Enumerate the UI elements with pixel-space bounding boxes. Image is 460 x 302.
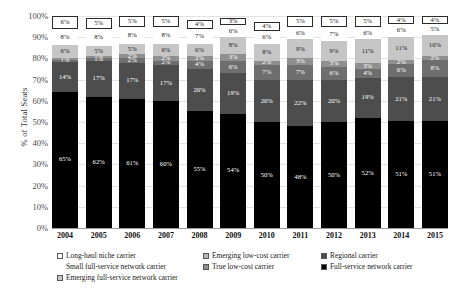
bar-segment[interactable]: 19%: [355, 78, 381, 118]
legend-item[interactable]: Emerging full-service network carrier: [57, 272, 203, 283]
bar-segment[interactable]: 54%: [220, 114, 246, 228]
bar-segment[interactable]: 5%: [86, 18, 112, 29]
bar-segment[interactable]: 62%: [86, 97, 112, 228]
bar-segment[interactable]: 5%: [119, 44, 145, 55]
bar-segment[interactable]: 5%: [119, 16, 145, 27]
x-tick-label: 2006: [119, 231, 145, 240]
legend-swatch-icon: [321, 253, 327, 259]
bar-segment[interactable]: 52%: [355, 118, 381, 228]
bar-segment[interactable]: 9%: [287, 39, 313, 58]
bar-segment[interactable]: 7%: [187, 29, 213, 44]
bar-segment[interactable]: 5%: [86, 46, 112, 57]
bar-segment[interactable]: 5%: [355, 16, 381, 27]
bar-segment[interactable]: 21%: [388, 77, 414, 121]
bar-column[interactable]: 4%6%11%2%6%21%51%: [388, 16, 414, 228]
bar-segment[interactable]: 4%: [254, 22, 280, 30]
bar-segment[interactable]: 19%: [220, 73, 246, 113]
bar-segment[interactable]: 17%: [153, 65, 179, 101]
bar-segment[interactable]: 21%: [422, 77, 448, 121]
bar-segment[interactable]: 55%: [187, 111, 213, 228]
bar-segment[interactable]: 5%: [321, 16, 347, 27]
legend-label: True low-cost carrier: [212, 263, 274, 270]
bar-segment[interactable]: 6%: [355, 27, 381, 40]
bar-segment[interactable]: 4%: [187, 61, 213, 69]
bar-column[interactable]: 4%7%6%2%4%20%55%: [187, 16, 213, 228]
bar-segment[interactable]: 6%: [220, 61, 246, 74]
bar-segment[interactable]: 6%: [220, 25, 246, 38]
bar-column[interactable]: 3%6%8%3%6%19%54%: [220, 16, 246, 228]
bar-segment[interactable]: 6%: [254, 31, 280, 44]
bar-segment[interactable]: 5%: [287, 16, 313, 27]
bar-column[interactable]: 6%8%6%1%1%14%65%: [52, 16, 78, 228]
bar-segment[interactable]: 17%: [119, 63, 145, 99]
bar-segment[interactable]: 4%: [422, 16, 448, 24]
bar-segment[interactable]: 5%: [153, 16, 179, 27]
bar-segment[interactable]: 4%: [355, 69, 381, 77]
bar-segment[interactable]: 6%: [52, 45, 78, 58]
legend-label: Full-service network carrier: [330, 263, 413, 270]
bar-segment[interactable]: 6%: [187, 44, 213, 57]
y-tick-label: 20%: [32, 181, 48, 191]
bar-segment[interactable]: 50%: [254, 122, 280, 228]
bar-segment[interactable]: 48%: [287, 126, 313, 228]
bar-segment[interactable]: 10%: [422, 35, 448, 56]
bar-segment[interactable]: 65%: [52, 92, 78, 228]
bar-segment[interactable]: 7%: [254, 65, 280, 80]
legend-item[interactable]: Regional carrier: [321, 250, 421, 261]
bar-segment[interactable]: 8%: [119, 27, 145, 44]
legend-item[interactable]: Full-service network carrier: [321, 261, 421, 272]
legend-item[interactable]: Small full-service network carrier: [57, 261, 203, 272]
bar-segment[interactable]: 7%: [321, 27, 347, 42]
bar-segment[interactable]: 22%: [287, 80, 313, 127]
legend-swatch-icon: [321, 264, 327, 270]
legend-label: Emerging low-cost carrier: [212, 252, 289, 259]
bar-segment[interactable]: 17%: [86, 61, 112, 97]
x-tick-label: 2011: [287, 231, 313, 240]
bar-segment[interactable]: 9%: [321, 41, 347, 60]
bar-column[interactable]: 5%8%5%1%1%17%62%: [86, 16, 112, 228]
bar-segment[interactable]: 6%: [287, 27, 313, 40]
legend-item[interactable]: True low-cost carrier: [203, 261, 321, 272]
bar-column[interactable]: 5%7%9%3%6%20%50%: [321, 16, 347, 228]
bar-segment[interactable]: 11%: [388, 37, 414, 60]
bar-segment[interactable]: 50%: [321, 122, 347, 228]
bar-segment[interactable]: 8%: [254, 44, 280, 61]
bar-segment[interactable]: 7%: [287, 65, 313, 80]
bar-segment[interactable]: 8%: [52, 29, 78, 46]
bar-column[interactable]: 5%8%5%2%2%17%61%: [119, 16, 145, 228]
legend-item[interactable]: Emerging low-cost carrier: [203, 250, 321, 261]
bar-segment[interactable]: 60%: [153, 101, 179, 228]
y-tick-label: 80%: [32, 53, 48, 63]
legend-swatch-icon: [57, 253, 63, 259]
bar-column[interactable]: 5%6%9%3%7%22%48%: [287, 16, 313, 228]
bar-segment[interactable]: 20%: [321, 80, 347, 122]
bar-segment[interactable]: 20%: [254, 80, 280, 122]
bar-segment[interactable]: 11%: [355, 39, 381, 62]
y-tick-label: 60%: [32, 96, 48, 106]
y-tick-label: 30%: [32, 159, 48, 169]
bar-segment[interactable]: 14%: [52, 62, 78, 91]
bar-segment[interactable]: 20%: [187, 69, 213, 111]
bar-segment[interactable]: 6%: [52, 16, 78, 29]
bar-segment[interactable]: 5%: [422, 24, 448, 34]
bar-column[interactable]: 5%6%11%3%4%19%52%: [355, 16, 381, 228]
bar-segment[interactable]: 51%: [422, 121, 448, 228]
bar-group: 6%8%6%1%1%14%65%5%8%5%1%1%17%62%5%8%5%2%…: [52, 16, 448, 228]
x-tick-label: 2013: [355, 231, 381, 240]
bar-segment[interactable]: 6%: [321, 67, 347, 80]
bar-segment[interactable]: 51%: [388, 121, 414, 228]
bar-segment[interactable]: 6%: [153, 44, 179, 57]
bar-segment[interactable]: 8%: [422, 60, 448, 77]
bar-column[interactable]: 4%5%10%2%8%21%51%: [422, 16, 448, 228]
bar-segment[interactable]: 61%: [119, 99, 145, 228]
legend-item[interactable]: Long-haul niche carrier: [57, 250, 203, 261]
bar-column[interactable]: 4%6%8%2%7%20%50%: [254, 16, 280, 228]
bar-segment[interactable]: 8%: [220, 37, 246, 54]
bar-segment[interactable]: 8%: [86, 29, 112, 46]
bar-column[interactable]: 5%8%6%2%2%17%60%: [153, 16, 179, 228]
bar-segment[interactable]: 4%: [187, 20, 213, 28]
bar-segment[interactable]: 4%: [388, 16, 414, 24]
bar-segment[interactable]: 8%: [153, 27, 179, 44]
bar-segment[interactable]: 6%: [388, 64, 414, 77]
bar-segment[interactable]: 6%: [388, 24, 414, 37]
